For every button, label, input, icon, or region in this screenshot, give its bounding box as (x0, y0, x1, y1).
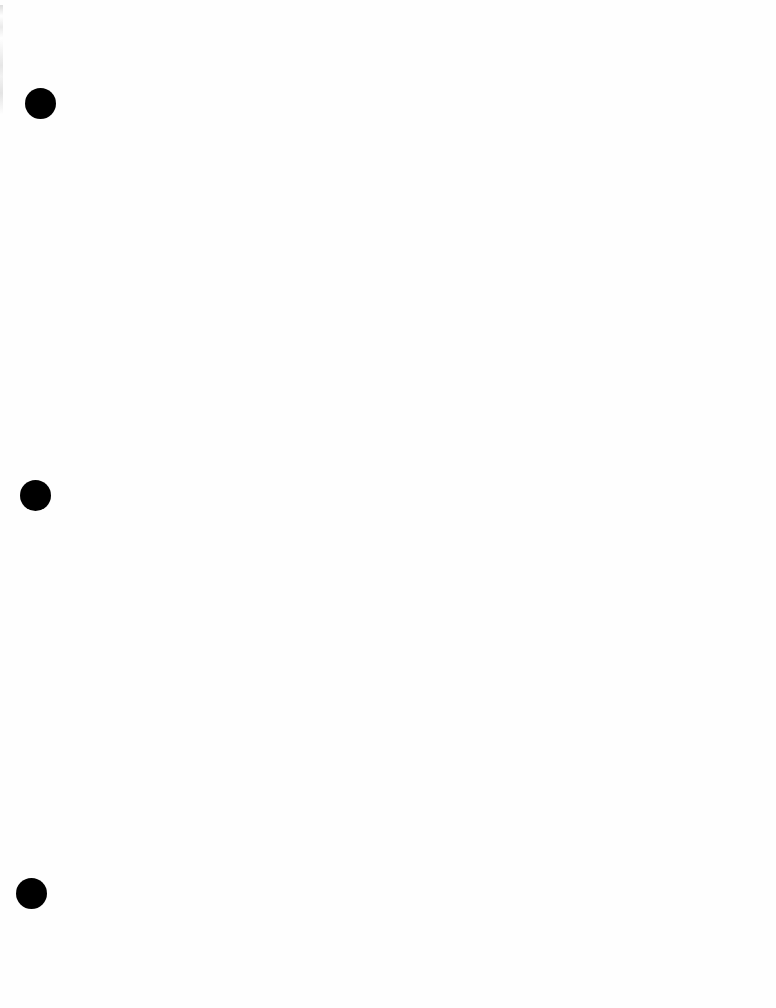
punch-hole-bottom (16, 878, 47, 909)
punch-hole-middle (20, 480, 51, 511)
blank-page (0, 0, 776, 1008)
punch-hole-top (25, 88, 56, 119)
scan-edge-artifact (0, 5, 3, 115)
